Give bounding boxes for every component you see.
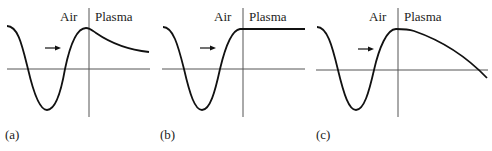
panel-a: Air Plasma (a) (5, 8, 150, 142)
panel-c-wave-curve (317, 27, 487, 110)
panel-c-caption: (c) (316, 127, 330, 142)
panel-b-plasma-label: Plasma (249, 9, 287, 24)
panel-a-arrow-icon (45, 46, 61, 51)
panel-a-air-label: Air (60, 9, 78, 24)
panel-b-caption: (b) (160, 127, 175, 142)
wave-plasma-figure: Air Plasma (a) Air Plasma (b) Air Plasma… (0, 0, 492, 151)
panel-a-wave-curve (7, 26, 149, 110)
panel-c-air-label: Air (369, 9, 387, 24)
panel-c-plasma-label: Plasma (404, 9, 442, 24)
panel-b-arrow-icon (200, 46, 216, 51)
panel-b-air-label: Air (214, 9, 232, 24)
panel-a-plasma-label: Plasma (95, 9, 133, 24)
panel-a-caption: (a) (5, 127, 19, 142)
panel-c-arrow-icon (358, 47, 374, 52)
panel-c: Air Plasma (c) (316, 8, 488, 142)
panel-b: Air Plasma (b) (160, 8, 305, 142)
